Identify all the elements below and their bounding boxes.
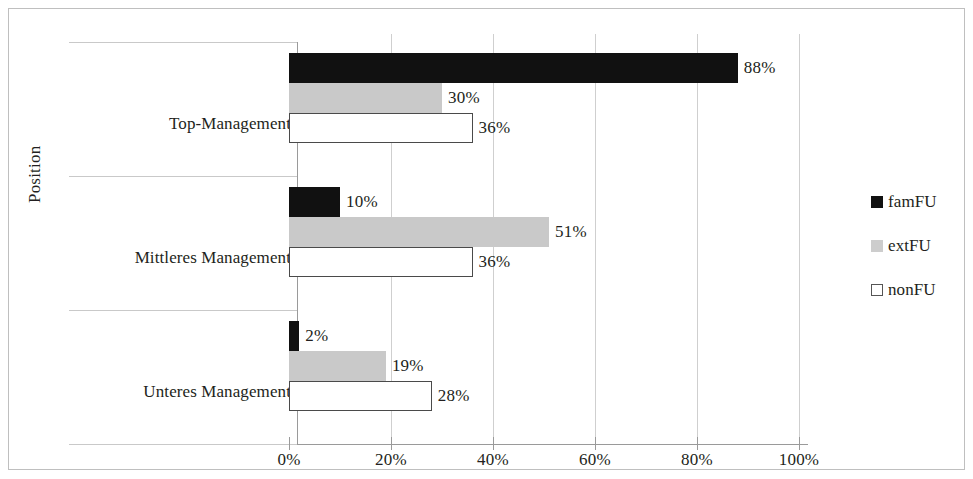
bar-value-label: 51% [555, 217, 587, 247]
filled-square-gray-icon [871, 240, 883, 252]
outlined-square-white-icon [871, 284, 883, 296]
bar-value-label: 88% [744, 53, 776, 83]
y-axis-title: Position [23, 63, 47, 203]
x-axis-tick-label: 60% [555, 450, 635, 470]
bar-value-label: 36% [479, 247, 511, 277]
x-axis-tick-mark [289, 437, 290, 450]
y-axis-tick-labels: Top-Management Mittleres Management Unte… [69, 42, 297, 445]
legend-item-famfu[interactable]: famFU [871, 191, 937, 213]
legend-label-nonfu: nonFU [888, 280, 936, 299]
bar-nonfu-3[interactable] [289, 381, 432, 411]
bar-value-label: 2% [305, 321, 328, 351]
bar-value-label: 10% [346, 187, 378, 217]
gridline [697, 34, 698, 437]
legend-item-nonfu[interactable]: nonFU [871, 279, 936, 301]
legend-label-extfu: extFU [888, 236, 931, 255]
bar-famfu-3[interactable] [289, 321, 299, 351]
bar-extfu-1[interactable] [289, 83, 442, 113]
bar-nonfu-2[interactable] [289, 247, 473, 277]
bar-nonfu-1[interactable] [289, 113, 473, 143]
bar-famfu-1[interactable] [289, 53, 738, 83]
bar-extfu-2[interactable] [289, 217, 549, 247]
x-axis-tick-label: 100% [759, 450, 839, 470]
x-axis-tick-label: 80% [657, 450, 737, 470]
bar-value-label: 28% [438, 381, 470, 411]
x-axis-tick-label: 20% [351, 450, 431, 470]
category-label-mittleres-management: Mittleres Management [69, 243, 291, 273]
x-axis-tick-label: 0% [249, 450, 329, 470]
gridline [799, 34, 800, 437]
gridline [595, 34, 596, 437]
x-axis-line [297, 444, 808, 445]
filled-square-black-icon [871, 196, 883, 208]
legend-label-famfu: famFU [888, 192, 937, 211]
bar-value-label: 19% [392, 351, 424, 381]
bar-famfu-2[interactable] [289, 187, 340, 217]
category-label-unteres-management: Unteres Management [69, 377, 291, 407]
category-label-top-management: Top-Management [69, 109, 291, 139]
bar-value-label: 36% [479, 113, 511, 143]
bar-chart: Position Top-Management Mittleres Manage… [0, 0, 973, 479]
chart-frame: Position Top-Management Mittleres Manage… [8, 8, 965, 470]
x-axis-tick-label: 40% [453, 450, 533, 470]
bar-value-label: 30% [448, 83, 480, 113]
legend-item-extfu[interactable]: extFU [871, 235, 931, 257]
bar-extfu-3[interactable] [289, 351, 386, 381]
